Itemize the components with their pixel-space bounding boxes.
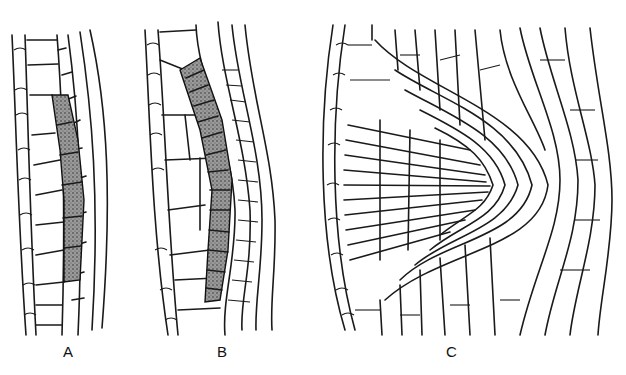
panel-a-drawing [12, 30, 107, 335]
panel-c-drawing [323, 25, 612, 335]
panel-label-a: A [63, 343, 73, 360]
panel-b-drawing [145, 22, 275, 335]
panel-label-b: B [217, 343, 227, 360]
figure-canvas [0, 0, 626, 375]
panel-label-c: C [446, 343, 457, 360]
